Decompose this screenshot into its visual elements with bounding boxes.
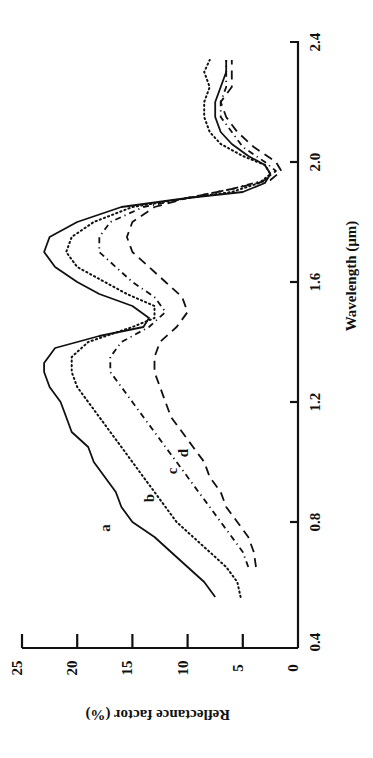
y-tick-label: 20 bbox=[64, 661, 80, 676]
labels-group: abcd bbox=[97, 448, 190, 532]
y-tick-label: 15 bbox=[119, 661, 135, 676]
curve-label-b: b bbox=[141, 494, 157, 502]
curve-label-a: a bbox=[97, 524, 113, 532]
curve-label-c: c bbox=[164, 467, 180, 474]
x-tick-label: 0.8 bbox=[307, 513, 323, 532]
y-tick-label: 25 bbox=[9, 661, 25, 676]
series-line-a bbox=[44, 60, 270, 597]
y-tick-label: 5 bbox=[230, 664, 246, 672]
x-tick-label: 2.4 bbox=[307, 32, 323, 51]
y-tick-label: 0 bbox=[285, 664, 301, 672]
x-axis-label: Wavelength (µm) bbox=[343, 221, 360, 332]
x-tick-label: 1.2 bbox=[307, 393, 323, 412]
axes: 0.40.81.21.62.02.40510152025Wavelength (… bbox=[9, 32, 360, 723]
series-group bbox=[44, 60, 281, 597]
series-line-d bbox=[127, 60, 282, 567]
x-tick-label: 1.6 bbox=[307, 272, 323, 291]
y-axis-label: Reflectance factor (%) bbox=[85, 706, 230, 723]
x-tick-label: 0.4 bbox=[307, 632, 323, 651]
reflectance-chart: 0.40.81.21.62.02.40510152025Wavelength (… bbox=[0, 0, 373, 758]
x-tick-label: 2.0 bbox=[307, 153, 323, 172]
y-tick-label: 10 bbox=[175, 661, 191, 676]
x-axis-line bbox=[290, 42, 298, 648]
series-line-b bbox=[66, 60, 270, 597]
curve-label-d: d bbox=[175, 448, 191, 457]
